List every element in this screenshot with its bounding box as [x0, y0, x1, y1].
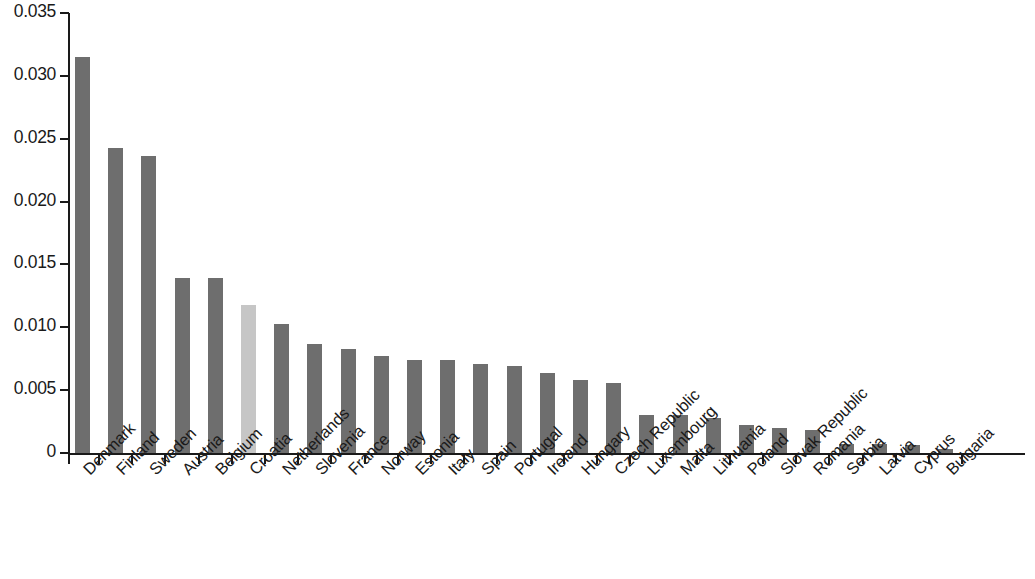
y-axis-line [68, 13, 70, 454]
y-axis-tick-label: 0.020 [0, 192, 56, 210]
y-axis-tick-label: 0.030 [0, 66, 56, 84]
y-axis-tick-label: 0.005 [0, 380, 56, 398]
bar-belgium [208, 278, 223, 453]
bar-chart: 00.0050.0100.0150.0200.0250.0300.035 Den… [0, 0, 1035, 579]
y-axis-tick-label: 0 [0, 443, 56, 461]
y-axis-tick-label: 0.025 [0, 129, 56, 147]
bar-finland [108, 148, 123, 453]
y-axis-tick [60, 263, 69, 265]
x-axis-origin-tick [68, 455, 70, 464]
y-axis-tick [60, 12, 69, 14]
y-axis-tick [60, 326, 69, 328]
y-axis-tick-label: 0.035 [0, 3, 56, 21]
bar-spain [473, 364, 488, 453]
y-axis-tick [60, 75, 69, 77]
bar-sweden [141, 156, 156, 453]
y-axis-tick [60, 452, 69, 454]
y-axis-tick [60, 389, 69, 391]
y-axis-tick [60, 201, 69, 203]
y-axis-tick-label: 0.010 [0, 317, 56, 335]
y-axis-tick-label: 0.015 [0, 254, 56, 272]
bar-denmark [75, 57, 90, 453]
y-axis-tick [60, 138, 69, 140]
